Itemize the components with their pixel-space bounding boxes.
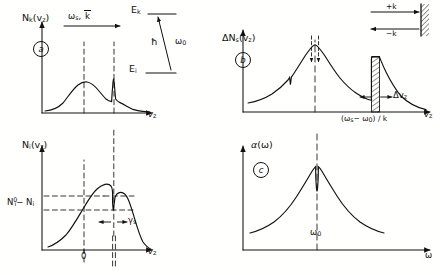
mirror-hatch (421, 4, 429, 36)
panel-a-guide-lines (84, 42, 114, 113)
panel-b-label: b (235, 52, 251, 68)
panel-d-axes (42, 146, 152, 250)
panel-a-ylabel: Nk(vz) (22, 13, 49, 24)
panel-a-curve (45, 79, 150, 113)
panel-c-label: c (253, 162, 269, 178)
hbar-label: ħ (151, 37, 158, 47)
level-upper-label: Ek (131, 5, 141, 16)
panel-b-hole-width-label: Δvz (393, 91, 407, 101)
panel-a-label: a (33, 41, 49, 57)
panel-c-xtick-center-label: ω0 (310, 228, 321, 238)
panel-d-xtick-zero-label: 0 (81, 252, 86, 261)
figure-canvas: Nk(vz) a vz ωs, k Ek Ei ħ ω0 ΔNs(vz) b Δ… (0, 0, 440, 275)
panel-c-xlabel: ω (425, 251, 432, 260)
panel-b-ylabel: ΔNs(vz) (222, 33, 255, 44)
panel-d-ylabel: Ni(vz) (22, 140, 47, 151)
panel-b-xlabel: vz (424, 110, 432, 120)
figure-vector-layer (0, 0, 440, 275)
panel-b-hole-hatch (372, 57, 380, 112)
panel-b-hole-position-label: (ωs− ω0) / k (341, 115, 387, 124)
panel-a-xlabel: vz (148, 110, 156, 120)
panel-c-ylabel: α(ω) (251, 140, 273, 150)
plus-k-label: +k (386, 3, 397, 11)
panel-d-level-label: N0i− Ni (7, 197, 34, 208)
panel-d-width-label: γs (128, 216, 136, 226)
pump-beam-label: ωs, k (68, 12, 91, 22)
panel-d-xlabel: vz (148, 247, 156, 257)
transition-omega-label: ω0 (175, 37, 186, 47)
panel-c-axes (243, 146, 430, 250)
minus-k-label: −k (386, 30, 397, 38)
level-lower-label: Ei (129, 64, 137, 75)
